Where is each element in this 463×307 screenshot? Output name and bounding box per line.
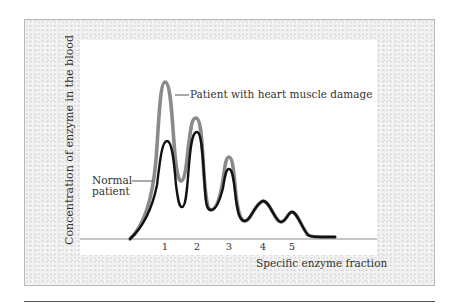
x-axis-label: Specific enzyme fraction <box>256 257 387 269</box>
x-tick-4: 4 <box>260 241 266 252</box>
x-tick-3: 3 <box>226 241 232 252</box>
normal-annotation-line2: patient <box>92 186 130 197</box>
x-tick-2: 2 <box>194 241 200 252</box>
x-tick-1: 1 <box>162 241 168 252</box>
damage-annotation: Patient with heart muscle damage <box>190 89 372 100</box>
normal-curve <box>130 132 335 239</box>
y-axis-label: Concentration of enzyme in the blood <box>63 35 76 245</box>
x-tick-5: 5 <box>289 241 295 252</box>
